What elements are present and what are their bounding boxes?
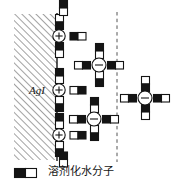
cation-2-water-right [70, 87, 86, 95]
anion-2-water-top [91, 98, 99, 113]
cation-2-water-top [56, 69, 64, 84]
cation-3-water-right [70, 132, 86, 140]
anion-1-group [75, 44, 124, 87]
cation-3-water-top [56, 114, 64, 129]
anion-1-water-left [75, 62, 91, 70]
anion-1-water-right [108, 62, 124, 70]
free-water-1 [60, 1, 68, 16]
anion-1-water-top [96, 44, 104, 59]
cation-2-group [53, 69, 86, 112]
anion-3-group [121, 77, 170, 120]
legend-label: 溶剂化水分子 [48, 166, 114, 177]
anion-3-water-left [121, 95, 137, 103]
cation-1-water-right [70, 33, 86, 41]
cation-1-water-top [56, 15, 64, 30]
anion-1-water-bottom [96, 72, 104, 87]
anion-3-water-right [154, 95, 170, 103]
cation-1-group [53, 15, 86, 58]
agi-phase-label: AgI [18, 84, 56, 96]
electric-double-layer-diagram: AgI 溶剂化水分子 [0, 0, 173, 187]
anion-2-water-left [70, 116, 86, 124]
cation-1-water-bottom [56, 43, 64, 58]
anion-3-water-top [142, 77, 150, 92]
legend: 溶剂化水分子 [14, 166, 114, 177]
legend-swatch-spacer [14, 166, 40, 177]
anion-2-water-right [103, 116, 119, 124]
cation-2-water-bottom [56, 97, 64, 112]
anion-2-water-bottom [91, 126, 99, 141]
anion-3-water-bottom [142, 105, 150, 120]
